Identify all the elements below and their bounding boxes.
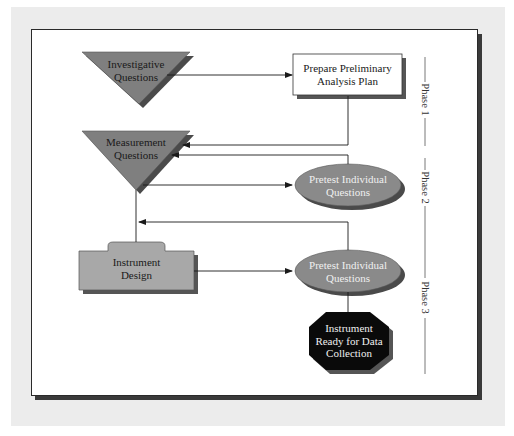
instrument-design-label: Instrument Design [79, 256, 194, 281]
label-line: Pretest Individual [295, 173, 401, 186]
label-line: Questions [96, 71, 176, 84]
phase-3-label: Phase 3 [420, 278, 431, 318]
label-line: Pretest Individual [295, 259, 401, 272]
prepare-plan-label: Prepare Preliminary Analysis Plan [293, 62, 402, 87]
pretest-2-label: Pretest Individual Questions [295, 259, 401, 284]
measurement-questions-label: Measurement Questions [96, 136, 176, 161]
investigative-questions-label: Investigative Questions [96, 58, 176, 83]
label-line: Questions [96, 149, 176, 162]
phase-1-label: Phase 1 [420, 80, 431, 120]
label-line: Design [79, 269, 194, 282]
label-line: Instrument [309, 322, 389, 335]
label-line: Questions [295, 186, 401, 199]
flowchart-canvas [0, 0, 514, 436]
label-line: Prepare Preliminary [293, 62, 402, 75]
label-line: Instrument [79, 256, 194, 269]
pretest-1-label: Pretest Individual Questions [295, 173, 401, 198]
label-line: Collection [309, 347, 389, 360]
phase-2-label: Phase 2 [420, 168, 431, 208]
instrument-ready-label: Instrument Ready for Data Collection [309, 322, 389, 360]
label-line: Ready for Data [309, 335, 389, 348]
label-line: Analysis Plan [293, 75, 402, 88]
label-line: Questions [295, 272, 401, 285]
label-line: Measurement [96, 136, 176, 149]
label-line: Investigative [96, 58, 176, 71]
